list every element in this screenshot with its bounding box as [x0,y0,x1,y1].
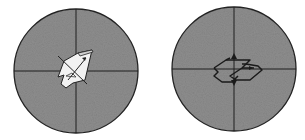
right-field-of-view [172,7,296,131]
left-field-of-view [14,9,138,133]
figure-canvas [0,0,305,140]
